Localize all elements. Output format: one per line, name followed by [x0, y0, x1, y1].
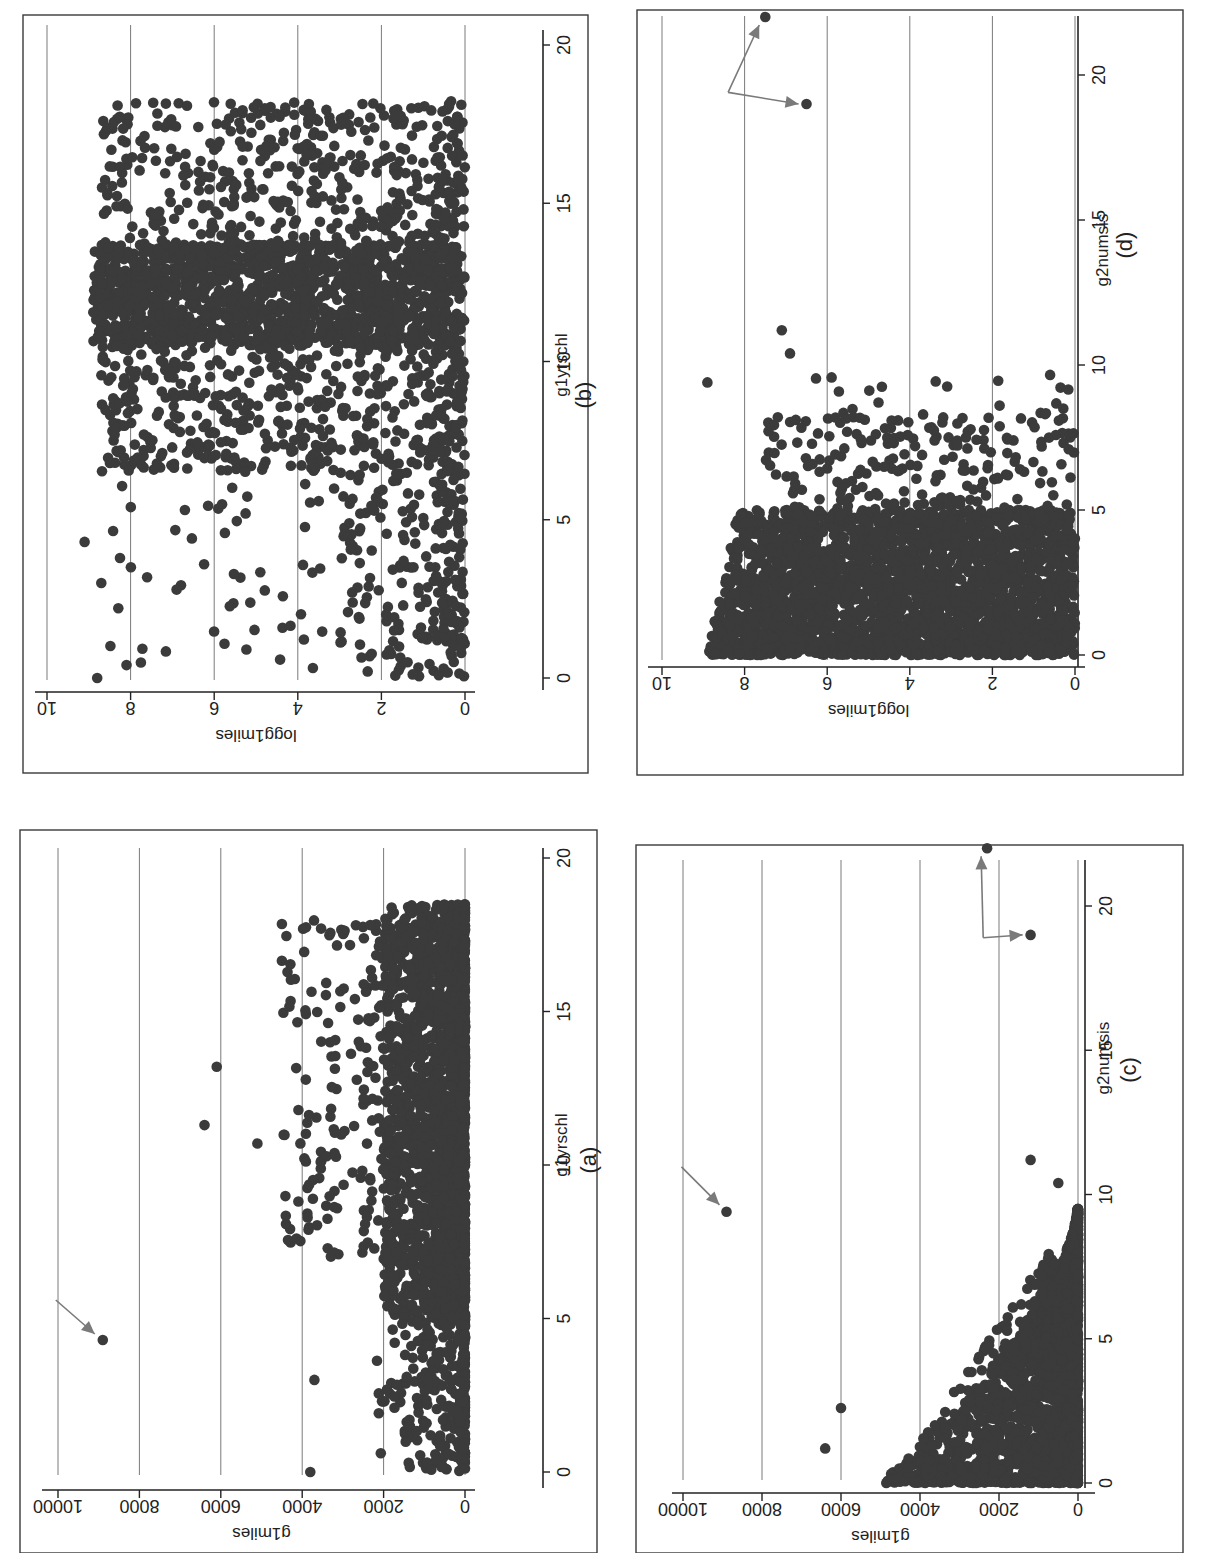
outlier-point [785, 348, 796, 359]
outlier-point [1053, 1178, 1064, 1189]
outlier-point [199, 1120, 210, 1131]
y-tick-label: 6 [822, 673, 832, 693]
outlier-point [820, 1443, 831, 1454]
x-tick-label: 0 [1089, 650, 1109, 660]
y-tick-label: 8 [126, 698, 136, 718]
y-tick-label: 10000 [33, 1496, 83, 1516]
panel-label: (b) [571, 382, 596, 409]
y-tick-label: 0 [1073, 1499, 1083, 1519]
x-axis-title: g1yrschl [552, 333, 571, 396]
x-tick-label: 20 [554, 848, 574, 868]
y-tick-label: 8000 [742, 1499, 782, 1519]
outlier-point [801, 99, 812, 110]
outlier-point [721, 1207, 732, 1218]
x-axis-title: g1yrschl [552, 1113, 571, 1176]
x-tick-label: 20 [554, 35, 574, 55]
scatter-points [79, 96, 470, 683]
x-tick-label: 10 [1089, 355, 1109, 375]
y-tick-label: 10 [37, 698, 57, 718]
outlier-point [1025, 930, 1036, 941]
y-tick-label: 0 [460, 1496, 470, 1516]
y-tick-label: 10 [652, 673, 672, 693]
y-tick-label: 4 [293, 698, 303, 718]
x-tick-label: 0 [554, 1467, 574, 1477]
y-tick-label: 2000 [979, 1499, 1019, 1519]
y-tick-label: 2 [376, 698, 386, 718]
x-tick-label: 20 [1096, 896, 1116, 916]
y-tick-label: 4000 [900, 1499, 940, 1519]
y-axis-title: g1miles [851, 1527, 910, 1546]
outlier-point [777, 325, 788, 336]
y-tick-label: 10000 [658, 1499, 708, 1519]
y-tick-label: 8000 [119, 1496, 159, 1516]
scatter-panel-b: 0246810logg1miles05101520g1yrschl(b) [23, 15, 596, 773]
x-tick-label: 5 [1089, 505, 1109, 515]
y-tick-label: 4 [905, 673, 915, 693]
scatter-panel-d: 0246810logg1miles05101520g2numsis(d) [637, 10, 1183, 775]
y-tick-label: 6000 [201, 1496, 241, 1516]
arrowhead-icon [1009, 930, 1022, 942]
scatter-panel-c: 0200040006000800010000g1miles05101520g2n… [636, 843, 1183, 1553]
y-tick-label: 6000 [821, 1499, 861, 1519]
y-tick-label: 0 [460, 698, 470, 718]
outlier-point [96, 578, 107, 589]
figure-page: 0246810logg1miles05101520g1yrschl(b) 024… [0, 0, 1226, 1553]
y-tick-label: 4000 [282, 1496, 322, 1516]
panel-label: (a) [576, 1147, 601, 1174]
outlier-point [211, 1062, 222, 1073]
outlier-point [309, 1375, 320, 1386]
arrowhead-icon [975, 856, 987, 869]
x-tick-label: 15 [554, 193, 574, 213]
scatter-points [702, 12, 1080, 661]
x-tick-label: 15 [554, 1001, 574, 1021]
y-axis-title: logg1miles [828, 701, 909, 720]
panel-label: (c) [1116, 1057, 1141, 1083]
scatter-points [721, 843, 1083, 1488]
y-tick-label: 6 [209, 698, 219, 718]
scatter-points [98, 899, 471, 1477]
scatter-panel-a: 0200040006000800010000g1miles05101520g1y… [20, 830, 601, 1553]
outlier-point [982, 843, 993, 854]
x-tick-label: 5 [554, 1313, 574, 1323]
outlier-point [92, 673, 103, 684]
outlier-point [252, 1138, 263, 1149]
arrowhead-icon [785, 96, 799, 108]
x-tick-label: 0 [1096, 1478, 1116, 1488]
y-axis-title: g1miles [232, 1524, 291, 1543]
outlier-point [1025, 1155, 1036, 1166]
x-tick-label: 20 [1089, 65, 1109, 85]
x-tick-label: 0 [554, 673, 574, 683]
x-tick-label: 5 [1096, 1334, 1116, 1344]
y-axis-title: logg1miles [215, 726, 296, 745]
y-tick-label: 2 [987, 673, 997, 693]
panel-label: (d) [1112, 232, 1137, 259]
outlier-point [98, 1335, 109, 1346]
x-tick-label: 10 [1096, 1184, 1116, 1204]
outlier-point [760, 12, 771, 23]
outlier-point [305, 1467, 316, 1478]
y-tick-label: 0 [1070, 673, 1080, 693]
outlier-point [836, 1403, 847, 1414]
x-axis-title: g2numsis [1094, 1022, 1113, 1095]
y-tick-label: 8 [740, 673, 750, 693]
outlier-point [702, 377, 713, 388]
x-tick-label: 5 [554, 515, 574, 525]
x-axis-title: g2numsis [1093, 214, 1112, 287]
y-tick-label: 2000 [364, 1496, 404, 1516]
outlier-point [79, 537, 90, 548]
